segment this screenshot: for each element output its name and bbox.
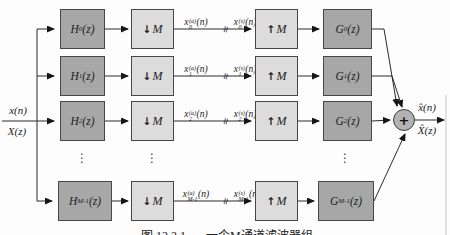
up-arrow-icon: ↑ xyxy=(267,70,276,82)
up-arrow-icon: ↑ xyxy=(267,23,276,35)
figure-caption: 图 12.2.1一个M通道滤波器组 xyxy=(141,226,313,235)
vdots-synthesis-column: ⋮ xyxy=(339,152,351,164)
down-arrow-icon: ↓ xyxy=(143,195,152,207)
synthesis-filter-block-2: G2(z) xyxy=(323,101,372,141)
downsampler-block-1: ↓M xyxy=(131,56,174,96)
downsampler-block-3: ↓M xyxy=(131,181,174,221)
subband-signal-a-label-1: x(a)1(n) xyxy=(175,60,217,74)
subband-signal-a-label-3: x(a)M-1(n) xyxy=(173,185,219,199)
down-arrow-icon: ↓ xyxy=(143,23,152,35)
subband-signal-a-label-0: x(a)0(n) xyxy=(175,13,217,27)
up-arrow-icon: ↑ xyxy=(267,195,276,207)
figure-caption-text: 一个M通道滤波器组 xyxy=(206,229,313,235)
wire-g-to-sum-row2 xyxy=(372,120,390,121)
vdots-downsampler-column: ⋮ xyxy=(146,152,158,164)
upsampler-block-1: ↑M xyxy=(255,56,298,96)
down-arrow-icon: ↓ xyxy=(143,70,152,82)
down-arrow-icon: ↓ xyxy=(143,115,152,127)
analysis-filter-block-1: H1(z) xyxy=(60,56,105,96)
upsampler-block-2: ↑M xyxy=(255,101,298,141)
upsampler-block-3: ↑M xyxy=(255,181,298,221)
vdots-analysis-column: ⋮ xyxy=(76,152,88,164)
up-arrow-icon: ↑ xyxy=(267,115,276,127)
subband-signal-a-label-2: x(a)2(n) xyxy=(175,105,217,119)
input-time-label: x(n) xyxy=(3,104,33,116)
figure-caption-number: 图 12.2.1 xyxy=(141,229,186,235)
upsampler-block-0: ↑M xyxy=(255,9,298,49)
plus-symbol: + xyxy=(399,113,410,128)
page-edge-line xyxy=(445,95,447,235)
wire-g-to-sum-row1 xyxy=(372,76,402,107)
analysis-filter-block-0: H0(z) xyxy=(60,9,105,49)
input-z-label: X(z) xyxy=(2,125,32,137)
filter-bank-diagram: x(n) X(z) H0(z) ↓M x(a)0(n) ≀≀ x(s)0(n) … xyxy=(0,0,450,235)
synthesis-filter-block-0: G0(z) xyxy=(323,9,372,49)
wire-g-to-sum-row0 xyxy=(372,29,397,106)
downsampler-block-2: ↓M xyxy=(131,101,174,141)
analysis-filter-block-3: HM-1(z) xyxy=(58,181,112,221)
synthesis-filter-block-1: G1(z) xyxy=(323,56,372,96)
downsampler-block-0: ↓M xyxy=(131,9,174,49)
output-time-label: x̂(n) xyxy=(412,101,442,113)
output-z-label: X̂(z) xyxy=(412,124,442,136)
wire-g-to-sum-row3 xyxy=(374,134,405,201)
synthesis-filter-block-3: GM-1(z) xyxy=(318,181,374,221)
analysis-filter-block-2: H2(z) xyxy=(60,101,105,141)
